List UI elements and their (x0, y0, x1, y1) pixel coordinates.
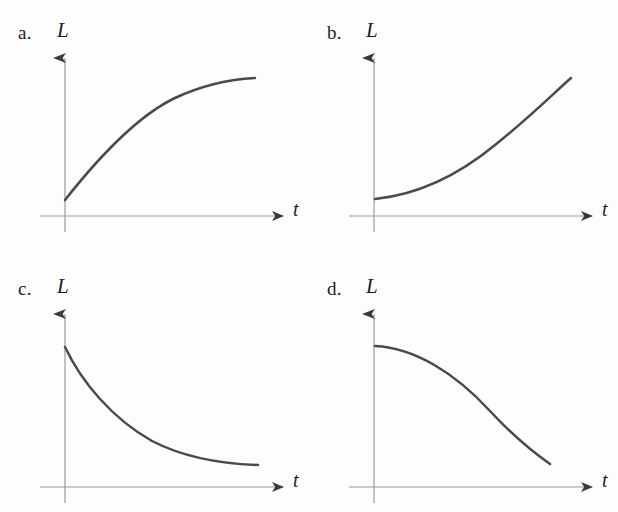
panel-a-y-axis-label: L (57, 18, 69, 43)
panel-c-y-axis-label: L (57, 274, 69, 299)
panel-b-letter: b. (327, 22, 342, 44)
curve-c (65, 347, 258, 465)
panel-b: b. L t (309, 0, 618, 256)
panel-a-letter: a. (18, 22, 32, 44)
panel-b-y-axis-label: L (366, 18, 378, 43)
panel-a-graph (0, 0, 309, 256)
panel-d-x-axis-label: t (602, 469, 608, 492)
curve-d (375, 346, 550, 464)
panel-b-x-axis-label: t (602, 198, 608, 221)
panel-a: a. L t (0, 0, 309, 256)
panel-c: c. L t (0, 256, 309, 512)
panel-c-x-axis-label: t (293, 469, 299, 492)
panel-a-x-axis-label: t (293, 198, 299, 221)
panel-d-graph (309, 256, 618, 512)
panel-d-letter: d. (327, 278, 342, 300)
panel-c-letter: c. (18, 278, 32, 300)
figure-container: a. L t b. L t (0, 0, 618, 512)
panel-d: d. L t (309, 256, 618, 512)
panel-d-y-axis-label: L (366, 274, 378, 299)
panel-c-graph (0, 256, 309, 512)
panel-b-graph (309, 0, 618, 256)
curve-a (65, 78, 255, 200)
curve-b (375, 78, 571, 199)
